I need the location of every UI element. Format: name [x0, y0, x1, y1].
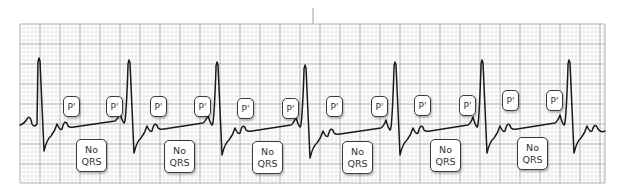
- no-qrs-line2: QRS: [435, 156, 455, 168]
- no-qrs-line2: QRS: [522, 154, 542, 166]
- ecg-strip-diagram: P'P'NoQRSP'P'NoQRSP'P'NoQRSP'P'NoQRSP'P'…: [0, 0, 625, 195]
- no-qrs-line2: QRS: [81, 156, 101, 168]
- no-qrs-line1: No: [173, 145, 186, 157]
- p-prime-label: P': [459, 95, 476, 116]
- p-prime-label: P': [282, 98, 299, 119]
- p-prime-label: P': [150, 96, 167, 117]
- p-prime-label: P': [371, 96, 388, 117]
- p-prime-label: P': [326, 96, 343, 117]
- no-qrs-line1: No: [351, 146, 364, 158]
- p-prime-label: P': [194, 96, 211, 117]
- no-qrs-line1: No: [85, 144, 98, 156]
- no-qrs-line1: No: [526, 142, 539, 154]
- no-qrs-label: NoQRS: [517, 137, 548, 170]
- no-qrs-label: NoQRS: [252, 141, 283, 174]
- p-prime-label: P': [502, 90, 519, 111]
- p-prime-label: P': [106, 96, 123, 117]
- p-prime-label: P': [414, 95, 431, 116]
- no-qrs-label: NoQRS: [164, 140, 195, 173]
- no-qrs-label: NoQRS: [430, 139, 461, 172]
- no-qrs-line2: QRS: [347, 158, 367, 170]
- p-prime-label: P': [546, 90, 563, 111]
- no-qrs-line2: QRS: [257, 158, 277, 170]
- no-qrs-line1: No: [261, 146, 274, 158]
- no-qrs-line2: QRS: [169, 157, 189, 169]
- p-prime-label: P': [63, 96, 80, 117]
- no-qrs-line1: No: [439, 144, 452, 156]
- no-qrs-label: NoQRS: [76, 139, 107, 172]
- no-qrs-label: NoQRS: [342, 141, 373, 174]
- p-prime-label: P': [237, 98, 254, 119]
